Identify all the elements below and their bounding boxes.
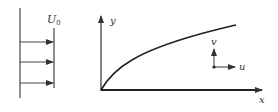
- velocity-components: v u: [211, 36, 245, 72]
- x-axis-label: x: [259, 94, 265, 105]
- boundary-layer-diagram: U0 y x v u: [0, 0, 278, 112]
- boundary-layer-curve: [101, 25, 236, 90]
- u-label: u: [239, 61, 245, 72]
- freestream-label: U0: [47, 13, 61, 27]
- freestream-profile: U0: [20, 8, 61, 98]
- v-label: v: [211, 36, 217, 47]
- y-axis-label: y: [109, 15, 116, 26]
- plate-axes: y x: [101, 15, 265, 105]
